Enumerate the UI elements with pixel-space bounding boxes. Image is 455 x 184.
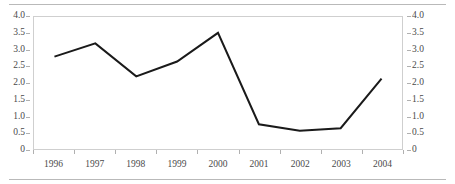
x-tick-mark-2	[115, 150, 116, 154]
x-tick-label-2: 1998	[115, 157, 156, 173]
x-tick-label-8: 2004	[362, 157, 403, 173]
x-tick-mark-5	[239, 150, 240, 154]
y-tick-label-left-1: 3.5	[13, 28, 25, 38]
y-tick-label-left-5: 1.5	[13, 95, 25, 105]
y-tick-mark-right-2	[407, 50, 411, 51]
x-tick-label-4: 2000	[197, 157, 238, 173]
y-tick-mark-right-3	[407, 66, 411, 67]
y-tick-mark-left-4	[26, 83, 30, 84]
x-tick-label-1: 1997	[74, 157, 115, 173]
x-tick-mark-7	[321, 150, 322, 154]
y-tick-mark-left-8	[26, 150, 30, 151]
x-tick-label-3: 1999	[156, 157, 197, 173]
x-tick-mark-9	[403, 150, 404, 154]
y-tick-mark-right-6	[407, 117, 411, 118]
y-tick-mark-right-8	[407, 150, 411, 151]
y-tick-label-right-2: 3.0	[412, 45, 424, 55]
x-tick-mark-1	[74, 150, 75, 154]
y-tick-mark-right-7	[407, 133, 411, 134]
x-tick-label-6: 2002	[280, 157, 321, 173]
chart-figure: 4.03.53.02.52.01.51.00.50 4.03.53.02.52.…	[0, 0, 455, 184]
x-tick-mark-3	[156, 150, 157, 154]
y-tick-mark-left-0	[26, 16, 30, 17]
x-tick-label-5: 2001	[239, 157, 280, 173]
y-tick-label-right-3: 2.5	[412, 61, 424, 71]
y-tick-label-right-5: 1.5	[412, 95, 424, 105]
y-tick-mark-left-7	[26, 133, 30, 134]
y-tick-label-left-7: 0.5	[13, 128, 25, 138]
y-tick-label-left-4: 2.0	[13, 78, 25, 88]
y-tick-label-left-0: 4.0	[13, 11, 25, 21]
y-tick-mark-left-3	[26, 66, 30, 67]
y-axis-right: 4.03.53.02.52.01.51.00.50	[406, 16, 436, 150]
x-axis-labels: 199619971998199920002001200220032004	[33, 157, 403, 173]
y-tick-mark-right-1	[407, 33, 411, 34]
x-tick-mark-0	[33, 150, 34, 154]
x-tick-mark-6	[280, 150, 281, 154]
top-divider-rule	[9, 4, 446, 5]
y-tick-label-right-1: 3.5	[412, 28, 424, 38]
x-tick-mark-8	[362, 150, 363, 154]
y-tick-mark-left-1	[26, 33, 30, 34]
y-tick-mark-right-0	[407, 16, 411, 17]
y-tick-label-right-8: 0	[412, 145, 417, 155]
y-tick-label-right-4: 2.0	[412, 78, 424, 88]
y-tick-label-right-0: 4.0	[412, 11, 424, 21]
plot-area	[33, 16, 403, 150]
line-series-path	[54, 33, 381, 131]
x-tick-mark-4	[197, 150, 198, 154]
x-tick-label-7: 2003	[321, 157, 362, 173]
line-series-svg	[34, 17, 402, 149]
y-axis-left: 4.03.53.02.52.01.51.00.50	[0, 16, 30, 150]
bottom-divider-rule	[9, 179, 446, 180]
x-tick-label-0: 1996	[33, 157, 74, 173]
y-tick-mark-left-5	[26, 100, 30, 101]
y-tick-label-left-2: 3.0	[13, 45, 25, 55]
y-tick-label-right-7: 0.5	[412, 128, 424, 138]
y-tick-mark-right-4	[407, 83, 411, 84]
y-tick-label-left-6: 1.0	[13, 112, 25, 122]
y-tick-label-right-6: 1.0	[412, 112, 424, 122]
y-tick-mark-right-5	[407, 100, 411, 101]
y-tick-label-left-3: 2.5	[13, 61, 25, 71]
y-tick-label-left-8: 0	[20, 145, 25, 155]
y-tick-mark-left-2	[26, 50, 30, 51]
y-tick-mark-left-6	[26, 117, 30, 118]
